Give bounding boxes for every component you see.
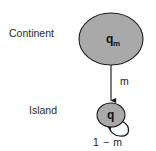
- diagram-canvas: Continent Island m q m q 1 − m: [0, 0, 156, 151]
- node-continent-subscript: m: [113, 39, 120, 48]
- edge-label-self-loop: 1 − m: [93, 136, 123, 148]
- row-label-island: Island: [29, 104, 57, 116]
- row-label-continent: Continent: [9, 27, 54, 39]
- edge-label-migration: m: [120, 75, 129, 87]
- population-migration-diagram: Continent Island m q m q 1 − m: [0, 0, 156, 151]
- node-island-label: q: [107, 108, 114, 122]
